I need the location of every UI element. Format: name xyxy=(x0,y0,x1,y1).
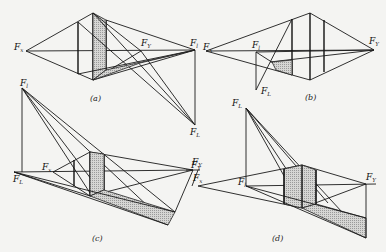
label-d-fL: FL xyxy=(231,98,242,109)
label-b-fx: Fx xyxy=(202,42,213,53)
shaded-face-c xyxy=(90,152,104,196)
label-d-fx: Fx xyxy=(192,173,203,184)
caption-d: (d) xyxy=(272,234,283,243)
panel-a xyxy=(26,13,195,125)
label-b-fL: FL xyxy=(260,86,271,97)
shadow-c xyxy=(90,190,175,225)
label-d-fl: Fl xyxy=(237,177,246,188)
perspective-figure: Fx FY Fl FL (a) Fx Fl FL FY (b) Fl Fx FL… xyxy=(0,0,386,252)
panel-d xyxy=(186,108,376,238)
label-c-fl: Fl xyxy=(19,78,28,89)
label-a-fl: Fl xyxy=(189,38,198,49)
label-d-fy: FY xyxy=(365,172,377,183)
caption-b: (b) xyxy=(305,93,316,102)
shadow-b xyxy=(272,60,292,75)
label-a-fy: FY xyxy=(140,38,152,49)
label-c-fL: FL xyxy=(12,174,23,185)
panel-b xyxy=(206,13,374,90)
caption-a: (a) xyxy=(90,94,101,103)
label-c-fx: Fx xyxy=(41,162,52,173)
caption-c: (c) xyxy=(92,234,103,243)
label-d-fy-left: FY xyxy=(191,157,203,168)
label-b-fy: FY xyxy=(368,36,380,47)
shaded-face-d xyxy=(284,165,316,208)
label-a-fL: FL xyxy=(189,127,200,138)
panel-c xyxy=(14,88,193,225)
label-b-fl: Fl xyxy=(251,40,260,51)
label-a-fx: Fx xyxy=(13,42,24,53)
